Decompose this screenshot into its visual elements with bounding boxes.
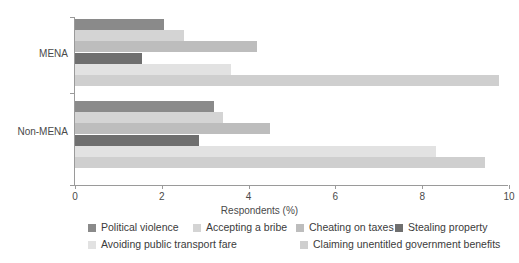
legend-row-1: Political violenceAccepting a bribeCheat… (0, 222, 519, 237)
legend-item[interactable]: Claiming unentitled government benefits (300, 239, 500, 250)
x-axis-tick (509, 185, 510, 189)
bar (75, 75, 499, 86)
y-axis-tick-top (70, 17, 75, 18)
x-axis-tick (75, 185, 76, 189)
legend-item[interactable]: Accepting a bribe (193, 222, 287, 233)
y-axis-label-non-mena: Non-MENA (0, 126, 68, 137)
legend-swatch-icon (88, 224, 96, 232)
x-axis-tick (162, 185, 163, 189)
y-axis-label-wrap: Non-MENA (0, 126, 68, 137)
legend-item[interactable]: Political violence (88, 222, 179, 233)
bar (75, 123, 270, 134)
y-axis-tick-middle (70, 93, 75, 94)
legend-swatch-icon (300, 241, 308, 249)
x-axis-tick-label: 0 (72, 191, 78, 202)
bar (75, 157, 485, 168)
legend-label: Cheating on taxes (309, 222, 394, 233)
legend-item[interactable]: Stealing property (395, 222, 487, 233)
bar (75, 112, 223, 123)
legend-item[interactable]: Cheating on taxes (296, 222, 394, 233)
legend-swatch-icon (193, 224, 201, 232)
legend-item[interactable]: Avoiding public transport fare (88, 239, 237, 250)
x-axis-tick-label: 8 (419, 191, 425, 202)
x-axis-tick (335, 185, 336, 189)
bar (75, 19, 164, 30)
x-axis-tick-label: 2 (159, 191, 165, 202)
y-axis-label-wrap: MENA (0, 48, 68, 59)
legend-row-2: Avoiding public transport fareClaiming u… (0, 239, 519, 254)
legend-swatch-icon (296, 224, 304, 232)
bar (75, 53, 142, 64)
x-axis-tick (422, 185, 423, 189)
legend-swatch-icon (88, 241, 96, 249)
x-axis-label: Respondents (%) (0, 205, 519, 216)
legend-label: Political violence (101, 222, 179, 233)
x-axis-tick-label: 4 (246, 191, 252, 202)
legend-label: Stealing property (408, 222, 487, 233)
legend-swatch-icon (395, 224, 403, 232)
legend-label: Claiming unentitled government benefits (313, 239, 500, 250)
legend-label: Accepting a bribe (206, 222, 287, 233)
bar (75, 41, 257, 52)
x-axis-line (74, 185, 508, 186)
bar (75, 30, 184, 41)
bar (75, 135, 199, 146)
x-axis-tick-label: 6 (333, 191, 339, 202)
bar (75, 101, 214, 112)
y-axis-label-mena: MENA (0, 48, 68, 59)
x-axis-tick-label: 10 (503, 191, 514, 202)
legend-label: Avoiding public transport fare (101, 239, 237, 250)
bar (75, 64, 231, 75)
x-axis-tick (249, 185, 250, 189)
bar (75, 146, 436, 157)
chart-title (0, 0, 519, 5)
bar-chart: MENANon-MENA 0246810 Respondents (%) Pol… (0, 0, 519, 263)
